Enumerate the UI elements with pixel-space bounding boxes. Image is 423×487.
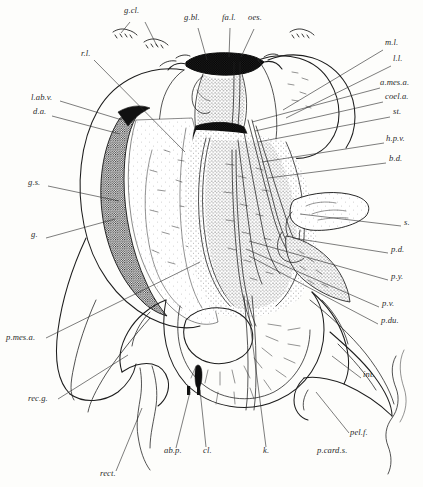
label-g: g. [31, 230, 38, 239]
right-body-flap [294, 300, 406, 474]
label-cl: cl. [203, 446, 212, 455]
label-b-d: b.d. [389, 154, 402, 163]
label-h-p-v: h.p.v. [386, 134, 405, 143]
label-l-l: l.l. [393, 54, 402, 63]
label-rect: rect. [100, 469, 116, 478]
label-coel-a: coel.a. [385, 92, 409, 101]
pericardial-mass [168, 53, 282, 75]
label-rec-g: rec.g. [28, 394, 48, 403]
label-p-d: p.d. [391, 245, 404, 254]
anatomical-figure: g.cl. g.bl. fa.l. oes. m.l. l.l. r.l. a.… [0, 0, 423, 487]
label-fa-l: fa.l. [222, 13, 236, 22]
label-ab-p: ab.p. [164, 446, 182, 455]
label-p-du: p.du. [381, 316, 399, 325]
label-p-card-s: p.card.s. [317, 446, 347, 455]
rectum-rectal-gland [122, 363, 169, 470]
label-r-l: r.l. [81, 49, 90, 58]
label-oes: oes. [248, 13, 262, 22]
label-st: st. [393, 107, 401, 116]
label-m-l: m.l. [385, 38, 398, 47]
label-d-a: d.a. [33, 107, 46, 116]
label-p-y: p.y. [391, 272, 403, 281]
label-p-v: p.v. [382, 299, 394, 308]
label-k: k. [263, 446, 269, 455]
label-int: int. [363, 370, 375, 379]
label-g-cl: g.cl. [124, 6, 139, 15]
label-g-bl: g.bl. [184, 13, 200, 22]
label-g-s: g.s. [28, 178, 40, 187]
label-pel-f: pel.f. [350, 428, 368, 437]
label-l-ab-v: l.ab.v. [31, 93, 52, 102]
label-s: s. [404, 218, 410, 227]
label-a-mes-a: a.mes.a. [380, 78, 409, 87]
label-p-mes-a: p.mes.a. [6, 333, 35, 342]
illustration-canvas [0, 0, 423, 487]
